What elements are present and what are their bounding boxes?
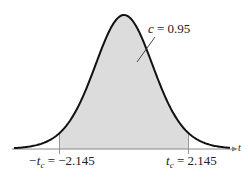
left-value: = −2.145 — [44, 153, 94, 168]
axis-label-t: t — [238, 143, 241, 153]
c-value: = 0.95 — [154, 21, 191, 36]
right-value: = 2.145 — [174, 153, 217, 168]
left-t-variable: −t — [28, 153, 40, 168]
t-distribution-chart — [0, 0, 248, 178]
confidence-label: c = 0.95 — [148, 22, 190, 35]
right-critical-label: tc = 2.145 — [166, 154, 217, 170]
left-critical-label: −tc = −2.145 — [28, 154, 95, 170]
